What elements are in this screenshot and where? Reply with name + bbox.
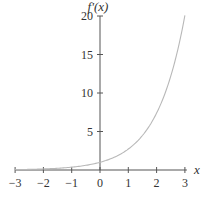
y-tick-label: 15 <box>81 48 93 62</box>
x-tick-label: −2 <box>37 176 50 190</box>
x-axis-label: x <box>193 162 200 177</box>
y-tick-label: 10 <box>81 86 93 100</box>
x-tick-label: 0 <box>97 176 103 190</box>
y-tick-label: 5 <box>87 125 93 139</box>
y-axis-label: f'(x) <box>88 0 109 14</box>
chart: −3−2−101235101520xf'(x) <box>0 0 205 199</box>
x-tick-label: −1 <box>65 176 78 190</box>
x-tick-label: 1 <box>125 176 131 190</box>
x-tick-label: 2 <box>154 176 160 190</box>
x-tick-label: 3 <box>182 176 188 190</box>
x-tick-label: −3 <box>9 176 22 190</box>
